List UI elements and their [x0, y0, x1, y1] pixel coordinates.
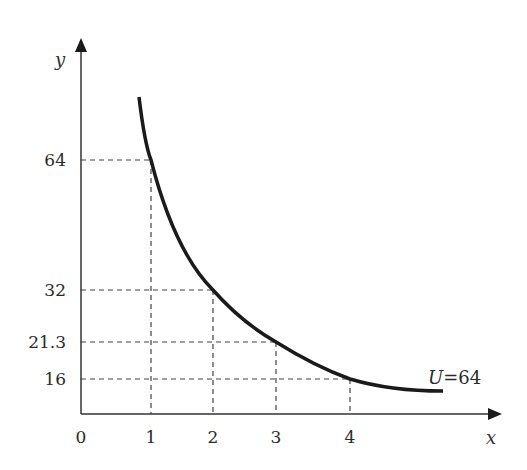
x-tick-3: 3	[271, 427, 282, 447]
y-axis-arrow-icon	[75, 38, 87, 52]
curve-label: U=64	[428, 367, 481, 388]
curve-label-eq: =	[443, 367, 458, 388]
indifference-curve-chart: y x 64 32 21.3 16 0 1 2 3 4 U=64	[0, 0, 527, 470]
y-tick-16: 16	[44, 369, 66, 389]
curve-label-var: U	[428, 367, 444, 388]
origin-label: 0	[76, 427, 87, 447]
axes	[81, 48, 492, 414]
y-tick-21-3: 21.3	[28, 332, 66, 352]
x-tick-4: 4	[345, 427, 356, 447]
x-tick-1: 1	[146, 427, 157, 447]
indifference-curve	[139, 97, 443, 391]
x-axis-label: x	[486, 427, 496, 448]
y-tick-64: 64	[44, 150, 66, 170]
guide-lines	[81, 160, 350, 414]
y-tick-32: 32	[44, 280, 66, 300]
curve-label-val: 64	[458, 367, 481, 388]
x-axis-arrow-icon	[488, 408, 502, 420]
x-tick-2: 2	[208, 427, 219, 447]
y-axis-label: y	[54, 49, 66, 70]
